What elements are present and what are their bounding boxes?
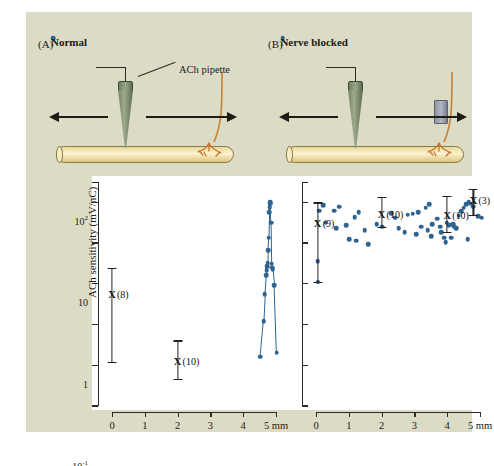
data-point	[261, 319, 266, 324]
error-bar-cap	[108, 268, 117, 269]
diagram-normal: ACh pipette	[34, 54, 258, 174]
x-tick	[316, 412, 317, 417]
data-point	[410, 212, 415, 217]
plot-area-skirt	[92, 394, 472, 410]
y-tick: 10	[92, 242, 98, 243]
data-point	[263, 292, 268, 297]
figure-canvas: (A) Normal (B) Nerve blocked ACh pipette	[26, 12, 472, 432]
y-tick: 10-1	[92, 324, 98, 325]
arrow-head-right-icon	[457, 112, 467, 122]
error-bar-sample-count: (9)	[323, 219, 335, 229]
error-bar-sample-count: (10)	[183, 357, 200, 367]
data-point	[443, 240, 448, 245]
arrow-head-right-icon	[227, 112, 237, 122]
error-bar-mean-marker: X	[174, 357, 182, 368]
error-bar	[111, 268, 112, 362]
data-point	[414, 232, 419, 237]
y-axis-panel-b	[302, 182, 303, 406]
x-tick	[178, 412, 179, 417]
arrow-right	[376, 116, 458, 118]
error-bar-cap	[469, 215, 478, 216]
axis-corner-serif	[302, 405, 308, 406]
data-point	[406, 212, 411, 217]
axis-corner-serif	[302, 182, 308, 183]
x-axis-panel-a: 012345 mm	[112, 412, 276, 413]
data-point	[337, 204, 342, 209]
endplate-icon	[192, 142, 226, 160]
data-point	[266, 248, 271, 253]
data-point	[347, 237, 352, 242]
data-point	[354, 238, 359, 243]
data-point	[269, 221, 274, 226]
y-tick-label: 10	[78, 298, 88, 308]
error-bar-cap	[108, 362, 117, 363]
data-point	[454, 226, 459, 231]
data-point	[430, 222, 435, 227]
error-bar-mean-marker: X	[108, 290, 116, 301]
data-point	[396, 226, 401, 231]
pipette-body	[348, 81, 363, 91]
panel-caption-b: (B) Nerve blocked	[268, 38, 283, 50]
axis-corner-serif	[92, 405, 98, 406]
error-bar-sample-count: (10)	[452, 211, 469, 221]
error-bar-mean-marker: X	[443, 210, 451, 221]
y-tick: 10-3	[92, 406, 98, 407]
data-point	[258, 354, 263, 359]
x-tick-label: 5 mm	[468, 420, 492, 431]
y-tick-panel-b	[302, 202, 308, 203]
data-point	[332, 208, 337, 213]
data-point	[267, 210, 272, 215]
error-bar-sample-count: (8)	[117, 290, 129, 300]
error-bar-cap	[173, 379, 182, 380]
data-point	[429, 234, 434, 239]
plot-area	[92, 176, 472, 394]
x-tick-label: 3	[412, 420, 417, 431]
x-tick-label: 2	[175, 420, 180, 431]
y-tick-label: 10-1	[72, 461, 88, 466]
x-tick-label: 5 mm	[264, 420, 288, 431]
x-tick-label: 4	[445, 420, 450, 431]
x-tick	[210, 412, 211, 417]
x-tick	[480, 412, 481, 417]
x-tick	[349, 412, 350, 417]
y-tick: 10-2	[92, 365, 98, 366]
arrow-left	[58, 116, 108, 118]
data-point	[416, 210, 421, 215]
nerve-block-cuff-icon	[434, 100, 448, 124]
pipette-elbow	[96, 67, 126, 68]
arrow-head-left-icon	[49, 112, 59, 122]
y-tick: 1	[92, 283, 98, 284]
axis-corner-serif	[92, 182, 98, 183]
data-point	[266, 235, 271, 240]
data-point	[425, 228, 430, 233]
pipette-body	[118, 81, 133, 91]
pipette-tip	[118, 90, 133, 148]
ach-pipette-icon	[114, 68, 140, 148]
panel-a-title: Normal	[51, 36, 56, 41]
y-tick-panel-b	[302, 283, 308, 284]
nerve-axon	[200, 72, 226, 152]
panel-caption-a: (A) Normal	[38, 38, 53, 50]
data-point	[274, 350, 279, 355]
x-tick-label: 2	[379, 420, 384, 431]
data-point	[465, 237, 470, 242]
muscle-fiber-cap	[286, 146, 293, 163]
x-tick	[276, 412, 277, 417]
y-tick-label: 102	[75, 215, 89, 226]
error-bar	[317, 202, 318, 281]
error-bar-cap	[443, 196, 452, 197]
y-tick-panel-b	[302, 324, 308, 325]
error-bar-cap	[313, 202, 322, 203]
x-tick	[112, 412, 113, 417]
x-tick-label: 1	[142, 420, 147, 431]
x-axis-panel-b: 012345 mm	[316, 412, 480, 413]
error-bar-sample-count: (3)	[478, 196, 490, 206]
data-point	[366, 242, 371, 247]
ach-pipette-icon	[344, 68, 370, 148]
panel-b-title: Nerve blocked	[280, 36, 285, 41]
data-point	[268, 200, 273, 205]
error-bar-mean-marker: X	[378, 209, 386, 220]
x-tick	[447, 412, 448, 417]
data-point	[334, 226, 339, 231]
data-point	[356, 210, 361, 215]
